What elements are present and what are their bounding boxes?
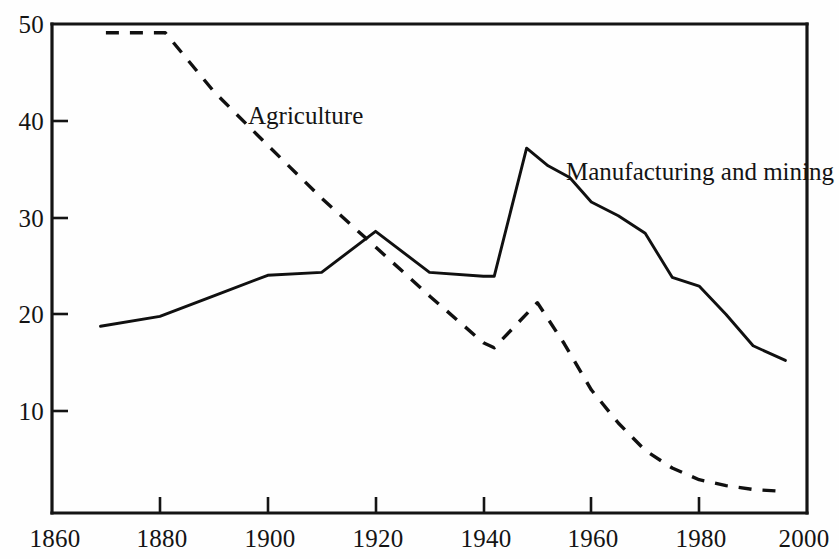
y-label-20: 20 [19, 301, 44, 328]
line-chart: 50 40 30 20 10 1860 1880 1900 1920 1940 … [0, 0, 839, 559]
series-line-agriculture [106, 33, 786, 492]
x-label-1980: 1980 [676, 525, 727, 552]
x-label-1960: 1960 [568, 525, 619, 552]
x-label-1900: 1900 [245, 525, 296, 552]
series-label-agriculture: Agriculture [248, 102, 363, 129]
y-tick-group [52, 121, 68, 411]
y-label-40: 40 [19, 108, 44, 135]
x-label-1920: 1920 [353, 525, 404, 552]
x-label-1880: 1880 [137, 525, 188, 552]
x-tick-labels: 1860 1880 1900 1920 1940 1960 1980 2000 [30, 525, 830, 552]
y-label-10: 10 [19, 398, 44, 425]
series-label-manufacturing: Manufacturing and mining [566, 158, 834, 185]
chart-figure: 50 40 30 20 10 1860 1880 1900 1920 1940 … [0, 0, 839, 559]
x-label-1940: 1940 [461, 525, 512, 552]
x-label-1860: 1860 [30, 525, 81, 552]
x-tick-group [160, 497, 699, 513]
y-label-30: 30 [19, 205, 44, 232]
y-label-50: 50 [19, 11, 44, 38]
y-tick-labels: 50 40 30 20 10 [19, 11, 44, 425]
x-label-2000: 2000 [779, 525, 830, 552]
